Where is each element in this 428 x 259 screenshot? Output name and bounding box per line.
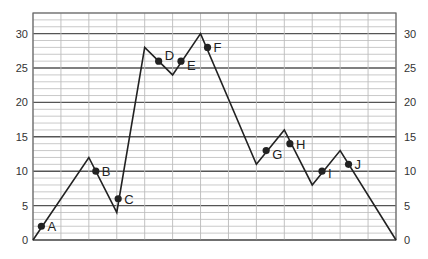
point-marker-d: [155, 58, 162, 65]
point-marker-c: [115, 195, 122, 202]
point-label-c: C: [124, 192, 133, 207]
point-marker-b: [92, 168, 99, 175]
point-marker-a: [38, 223, 45, 230]
point-marker-g: [263, 147, 270, 154]
point-label-j: J: [355, 157, 362, 172]
y-tick-label-right: 0: [404, 234, 410, 246]
y-tick-label-right: 5: [404, 200, 410, 212]
point-marker-i: [318, 168, 325, 175]
point-label-g: G: [272, 147, 282, 162]
point-label-h: H: [296, 137, 305, 152]
y-tick-label-left: 20: [16, 96, 28, 108]
point-marker-h: [286, 140, 293, 147]
point-marker-f: [204, 44, 211, 51]
y-tick-label-left: 5: [22, 200, 28, 212]
point-label-b: B: [102, 164, 111, 179]
point-label-f: F: [214, 40, 222, 55]
y-tick-label-right: 10: [404, 165, 416, 177]
y-tick-label-right: 20: [404, 96, 416, 108]
y-tick-label-left: 10: [16, 165, 28, 177]
y-tick-label-left: 15: [16, 131, 28, 143]
y-tick-label-left: 30: [16, 28, 28, 40]
y-tick-label-right: 30: [404, 28, 416, 40]
y-tick-label-right: 15: [404, 131, 416, 143]
y-axis-right: 051015202530: [404, 28, 416, 246]
y-tick-label-left: 25: [16, 62, 28, 74]
y-tick-label-left: 0: [22, 234, 28, 246]
point-marker-e: [177, 58, 184, 65]
y-axis-left: 051015202530: [16, 28, 28, 246]
point-label-i: I: [328, 166, 332, 181]
y-tick-label-right: 25: [404, 62, 416, 74]
line-chart: 051015202530 051015202530 ABCDEFGHIJ: [0, 0, 428, 259]
point-label-e: E: [187, 58, 196, 73]
point-marker-j: [345, 161, 352, 168]
point-label-d: D: [165, 48, 174, 63]
point-label-a: A: [47, 219, 56, 234]
